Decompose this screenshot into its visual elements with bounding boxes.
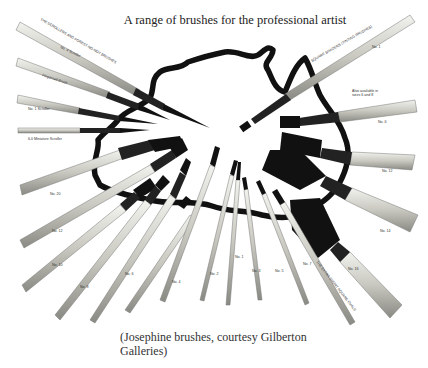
label-no2: No. 2 bbox=[210, 272, 219, 276]
label-no7: No. 7 bbox=[303, 262, 312, 266]
brush-shader-no6 bbox=[280, 100, 417, 128]
label-also-available-sizes: sizes 6 and 8 bbox=[352, 93, 373, 97]
figure-caption: (Josephine brushes, courtesy Gilberton G… bbox=[120, 330, 350, 358]
caption-line-1: (Josephine brushes, courtesy Gilberton bbox=[120, 330, 350, 344]
label-no5: No. 5 bbox=[275, 269, 284, 273]
brush-round-no2 bbox=[160, 146, 220, 302]
label-no1-scroller: No. 1 Scroller bbox=[28, 107, 51, 111]
label-no12-left: No. 12 bbox=[52, 229, 63, 233]
label-no6-b: No. 6 bbox=[125, 272, 134, 276]
label-no3: No. 3 bbox=[252, 269, 261, 273]
label-no4: No. 4 bbox=[172, 280, 181, 284]
brush-round-no3 bbox=[242, 177, 262, 300]
map-outline-icon bbox=[94, 48, 348, 218]
label-no1: No. 1 bbox=[235, 255, 244, 259]
label-no14: No. 14 bbox=[380, 229, 391, 233]
brush-round-no12 bbox=[20, 138, 188, 248]
label-no8: No. 8 bbox=[80, 285, 89, 289]
brush-miniature-scroller bbox=[18, 128, 150, 133]
label-no20: No. 20 bbox=[50, 192, 61, 196]
label-shader-series: SQUARE SHADERS (TINTING BRUSHES) bbox=[311, 25, 373, 63]
label-miniature-scroller: 6.0 Miniature Scroller bbox=[28, 137, 63, 141]
label-no10: No. 10 bbox=[52, 263, 63, 267]
label-no12: No. 12 bbox=[382, 169, 393, 173]
brush-illustration: THE SCROLLERS AND FOREST-NO-NOT BRUSHES … bbox=[0, 0, 428, 368]
caption-line-2: Galleries) bbox=[120, 344, 350, 358]
label-no6: No. 6 bbox=[378, 120, 387, 124]
label-no16: No. 16 bbox=[348, 267, 359, 271]
label-no1-right: No. 1 bbox=[372, 45, 381, 49]
